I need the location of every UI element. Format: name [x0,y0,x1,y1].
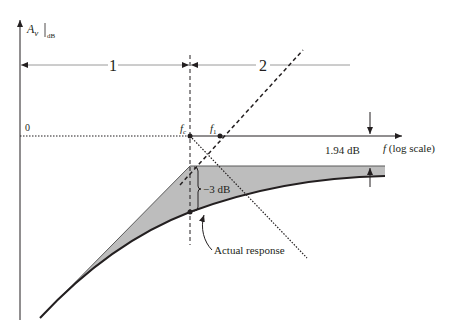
fc-label: fc [180,122,187,136]
region-1-label: 1 [109,57,117,74]
y-axis-label-unit: dB [47,32,56,40]
x-axis-label: f (log scale) [383,142,435,155]
actual-response-label: Actual response [214,244,285,256]
frequency-response-diagram: Av dB 1 2 0 fc f1 f (log scale) 1.94 dB … [0,0,449,335]
region-2-label: 2 [259,57,267,74]
actual-response-leader [202,215,212,250]
offset-label: 1.94 dB [325,144,360,156]
f1-label: f1 [210,122,217,136]
minus-3db-label: −3 dB [203,183,230,195]
zero-label: 0 [25,122,30,133]
y-axis-label: Av [26,22,38,38]
f1-point [218,134,223,139]
slope-dashed-line [180,50,303,185]
fc-actual-point [188,210,193,215]
fc-point [188,134,193,139]
